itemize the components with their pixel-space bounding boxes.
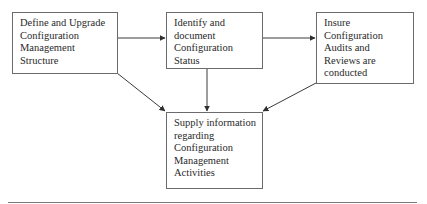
node-text-line: Supply information <box>174 117 256 130</box>
node-text-line: Reviews are <box>324 55 407 68</box>
node-text-line: conducted <box>324 67 407 80</box>
node-text-line: regarding <box>174 130 256 143</box>
node-text-line: Status <box>174 55 256 68</box>
node-text-line: Audits and <box>324 42 407 55</box>
node-insure-audits-reviews: Insure Configuration Audits and Reviews … <box>316 12 414 84</box>
node-text-line: Structure <box>20 55 111 68</box>
node-text-line: Define and Upgrade <box>20 17 111 30</box>
arrow-define-to-supply <box>117 73 165 111</box>
node-text-line: Configuration <box>174 142 256 155</box>
node-text-line: Configuration <box>20 30 111 43</box>
node-text-line: Identify and <box>174 17 256 30</box>
node-text-line: Management <box>174 155 256 168</box>
node-text-line: Configuration <box>324 30 407 43</box>
node-text-line: Configuration <box>174 42 256 55</box>
node-define-upgrade-structure: Define and Upgrade Configuration Managem… <box>12 12 118 74</box>
node-text-line: Insure <box>324 17 407 30</box>
node-text-line: Management <box>20 42 111 55</box>
bottom-divider <box>8 202 417 203</box>
node-supply-information: Supply information regarding Configurati… <box>166 112 263 189</box>
node-text-line: document <box>174 30 256 43</box>
node-identify-document-status: Identify and document Configuration Stat… <box>166 12 263 69</box>
arrow-insure-to-supply <box>263 83 316 111</box>
node-text-line: Activities <box>174 167 256 180</box>
